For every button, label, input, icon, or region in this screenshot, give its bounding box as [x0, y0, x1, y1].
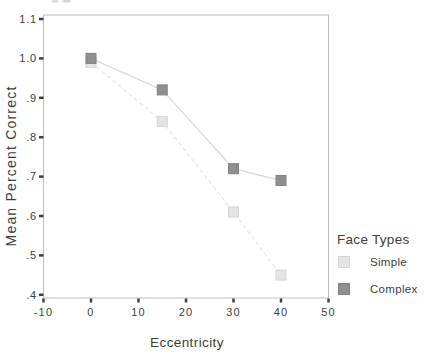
marker-simple: [229, 207, 239, 217]
x-tick-label: -10: [34, 306, 54, 318]
y-tick-label: .4: [26, 289, 37, 301]
artifact-mark: [52, 0, 58, 3]
y-tick-mark: [39, 175, 44, 178]
legend-title: Face Types: [337, 232, 410, 247]
legend-label-complex: Complex: [370, 283, 417, 295]
y-tick-mark: [39, 18, 44, 21]
y-axis-ticks: 1.11.0.9.8.7.6.5.4: [19, 13, 43, 301]
x-tick-label: 10: [131, 306, 146, 318]
y-tick-mark: [39, 254, 44, 257]
series-line-complex: [91, 58, 281, 180]
marker-simple: [276, 270, 286, 280]
y-tick-mark: [39, 57, 44, 60]
legend: Face Types Simple Complex: [337, 232, 427, 312]
x-tick-mark: [185, 299, 188, 303]
y-tick-mark: [39, 215, 44, 218]
marker-simple: [157, 116, 167, 126]
cropped-text-artifact: [52, 0, 71, 3]
y-tick-label: 1.1: [19, 13, 37, 25]
y-tick-label: .5: [26, 249, 37, 261]
x-tick-label: 30: [226, 306, 241, 318]
x-tick-label: 20: [179, 306, 194, 318]
marker-complex: [86, 53, 96, 63]
y-tick-mark: [39, 136, 44, 139]
legend-label-simple: Simple: [370, 256, 407, 268]
x-tick-mark: [232, 299, 235, 303]
x-axis-label: Eccentricity: [150, 335, 224, 350]
y-tick-mark: [39, 294, 44, 297]
y-tick-label: .9: [26, 92, 37, 104]
y-tick-label: 1.0: [19, 52, 37, 64]
legend-item-simple: Simple: [338, 256, 407, 268]
marker-complex: [157, 85, 167, 95]
legend-item-complex: Complex: [338, 283, 417, 295]
marker-complex: [229, 164, 239, 174]
y-tick-mark: [39, 97, 44, 100]
x-axis-ticks: -1001020304050: [34, 299, 336, 318]
x-tick-mark: [280, 299, 283, 303]
x-tick-mark: [327, 299, 330, 303]
x-tick-label: 40: [274, 306, 289, 318]
y-tick-label: .8: [26, 131, 37, 143]
x-tick-mark: [42, 299, 45, 303]
artifact-mark: [63, 0, 71, 3]
y-axis-label: Mean Percent Correct: [3, 86, 19, 247]
series-line-simple: [91, 62, 281, 275]
x-tick-label: 50: [321, 306, 336, 318]
simple-series-swatch-icon: [338, 256, 350, 268]
y-tick-label: .6: [26, 210, 37, 222]
data-series: [86, 53, 286, 280]
marker-complex: [276, 176, 286, 186]
y-tick-label: .7: [26, 170, 37, 182]
chart: 1.11.0.9.8.7.6.5.4 -1001020304050 Eccent…: [0, 0, 427, 361]
x-tick-mark: [137, 299, 140, 303]
x-tick-label: 0: [87, 306, 94, 318]
x-tick-mark: [90, 299, 93, 303]
complex-series-swatch-icon: [338, 283, 350, 295]
